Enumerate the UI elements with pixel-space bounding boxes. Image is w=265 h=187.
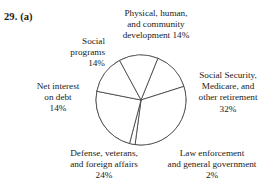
- slice-label-law-enforcement: Law enforcement and general government 2…: [156, 148, 265, 182]
- figure-page: 29. (a) Physical, human, and community d…: [0, 0, 265, 187]
- pie-slices: [96, 55, 186, 145]
- slice-label-social-security-medicare: Social Security, Medicare, and other ret…: [190, 70, 265, 115]
- slice-label-physical-human-community: Physical, human, and community developme…: [104, 8, 208, 42]
- slice-label-net-interest-on-debt: Net interest on debt 14%: [20, 81, 96, 115]
- slice-label-social-programs: Social programs 14%: [33, 36, 105, 70]
- pie-chart: Physical, human, and community developme…: [0, 0, 265, 187]
- slice-label-defense-veterans: Defense, veterans, and foreign affairs 2…: [52, 148, 156, 182]
